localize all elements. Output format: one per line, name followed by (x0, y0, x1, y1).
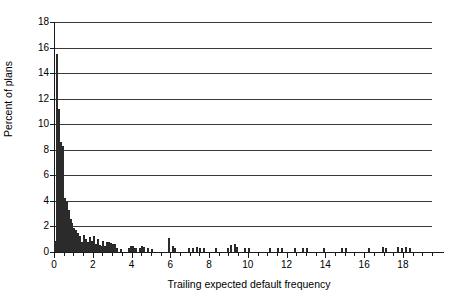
x-tick-minor (151, 252, 152, 256)
x-axis-title: Trailing expected default frequency (54, 278, 444, 290)
x-axis-ticks: 024681012141618 (54, 252, 444, 278)
gridline (54, 73, 432, 74)
y-tick (50, 22, 55, 23)
y-tick (50, 48, 55, 49)
y-tick (50, 124, 55, 125)
y-tick-label: 18 (9, 17, 49, 27)
x-tick-minor (374, 252, 375, 256)
x-tick-minor (161, 252, 162, 256)
y-tick-label: 8 (9, 145, 49, 155)
x-tick-minor (199, 252, 200, 256)
x-tick-major (248, 252, 249, 258)
bar (168, 238, 170, 252)
x-tick-minor (190, 252, 191, 256)
x-tick-major (325, 252, 326, 258)
x-tick-label: 18 (397, 259, 408, 270)
x-tick-minor (267, 252, 268, 256)
x-tick-major (209, 252, 210, 258)
x-tick-minor (335, 252, 336, 256)
y-tick-label: 10 (9, 119, 49, 129)
x-tick-minor (432, 252, 433, 256)
x-tick-label: 4 (129, 259, 135, 270)
x-tick-minor (345, 252, 346, 256)
x-tick-label: 6 (168, 259, 174, 270)
x-tick-label: 14 (320, 259, 331, 270)
x-tick-minor (384, 252, 385, 256)
y-tick-label: 6 (9, 170, 49, 180)
x-tick-minor (422, 252, 423, 256)
y-tick-label: 14 (9, 68, 49, 78)
x-tick-minor (306, 252, 307, 256)
gridline (54, 201, 432, 202)
y-tick-label: 0 (9, 247, 49, 257)
gridline (54, 150, 432, 151)
x-tick-label: 2 (90, 259, 96, 270)
y-tick-label: 16 (9, 43, 49, 53)
y-tick (50, 226, 55, 227)
gridline (54, 22, 432, 23)
x-tick-major (287, 252, 288, 258)
x-tick-minor (228, 252, 229, 256)
x-tick-minor (64, 252, 65, 256)
x-tick-major (93, 252, 94, 258)
x-tick-minor (141, 252, 142, 256)
chart-figure: Percent of plans 024681012141618 0246810… (0, 0, 455, 299)
bar (230, 245, 232, 252)
y-tick (50, 73, 55, 74)
x-tick-minor (83, 252, 84, 256)
x-tick-major (170, 252, 171, 258)
x-tick-minor (180, 252, 181, 256)
x-tick-minor (296, 252, 297, 256)
x-tick-minor (393, 252, 394, 256)
x-tick-label: 12 (281, 259, 292, 270)
x-tick-minor (277, 252, 278, 256)
x-tick-major (132, 252, 133, 258)
x-tick-minor (219, 252, 220, 256)
x-tick-label: 0 (51, 259, 57, 270)
x-tick-minor (413, 252, 414, 256)
gridline (54, 175, 432, 176)
x-tick-major (364, 252, 365, 258)
x-tick-major (54, 252, 55, 258)
x-tick-minor (102, 252, 103, 256)
gridline (54, 99, 432, 100)
y-tick (50, 201, 55, 202)
x-tick-minor (122, 252, 123, 256)
y-tick (50, 150, 55, 151)
gridline (54, 48, 432, 49)
y-tick (50, 99, 55, 100)
x-tick-minor (258, 252, 259, 256)
x-tick-label: 10 (242, 259, 253, 270)
x-tick-minor (238, 252, 239, 256)
x-tick-label: 8 (206, 259, 212, 270)
gridline (54, 124, 432, 125)
y-tick (50, 175, 55, 176)
plot-area: 024681012141618 (54, 22, 432, 252)
x-tick-minor (112, 252, 113, 256)
y-tick-label: 12 (9, 94, 49, 104)
y-tick-label: 4 (9, 196, 49, 206)
y-tick-label: 2 (9, 221, 49, 231)
gridline (54, 226, 432, 227)
x-tick-minor (316, 252, 317, 256)
x-tick-major (403, 252, 404, 258)
x-tick-minor (354, 252, 355, 256)
x-tick-minor (73, 252, 74, 256)
x-tick-label: 16 (359, 259, 370, 270)
